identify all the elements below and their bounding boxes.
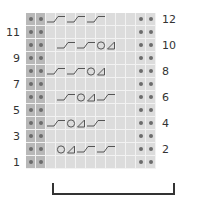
chart-cell (66, 78, 76, 91)
chart-cell (26, 156, 36, 169)
chart-cell (136, 65, 146, 78)
chart-cell (116, 104, 126, 117)
chart-cell (146, 13, 156, 26)
chart-cell (46, 52, 56, 65)
chart-cell (56, 130, 66, 143)
chart-cell (36, 130, 46, 143)
dot-icon (149, 43, 153, 47)
chart-cell (146, 52, 156, 65)
dot-icon (39, 43, 43, 47)
chart-cell (66, 156, 76, 169)
chart-cell (36, 52, 46, 65)
chart-cell (86, 52, 96, 65)
row-label-9: 9 (4, 52, 20, 65)
chart-cell (76, 130, 86, 143)
chart-cell (126, 26, 136, 39)
chart-cell (26, 78, 36, 91)
chart-cell (96, 78, 106, 91)
chart-cell (36, 26, 46, 39)
cable-cross-icon (76, 143, 96, 156)
circle-yo-icon (86, 65, 96, 78)
chart-cell (56, 52, 66, 65)
cable-cross-icon (76, 39, 96, 52)
chart-cell (86, 26, 96, 39)
dot-icon (39, 147, 43, 151)
cable-cross-icon (56, 39, 76, 52)
dot-icon (139, 95, 143, 99)
dot-icon (139, 56, 143, 60)
chart-cell (146, 78, 156, 91)
chart-cell (106, 78, 116, 91)
chart-cell (146, 65, 156, 78)
chart-cell (146, 91, 156, 104)
dot-icon (139, 30, 143, 34)
chart-cell (46, 26, 56, 39)
triangle-decrease-icon (86, 91, 96, 104)
chart-cell (76, 78, 86, 91)
triangle-decrease-icon (106, 39, 116, 52)
chart-cell (46, 78, 56, 91)
chart-cell (126, 52, 136, 65)
triangle-decrease-icon (96, 65, 106, 78)
dot-icon (29, 69, 33, 73)
triangle-decrease-icon (76, 117, 86, 130)
circle-yo-icon (76, 91, 86, 104)
chart-cell (136, 52, 146, 65)
chart-cell (116, 117, 126, 130)
dot-icon (149, 121, 153, 125)
chart-cell (146, 39, 156, 52)
dot-icon (139, 69, 143, 73)
dot-icon (39, 30, 43, 34)
chart-cell (136, 156, 146, 169)
chart-cell (106, 156, 116, 169)
chart-cell (96, 156, 106, 169)
chart-cell (36, 91, 46, 104)
dot-icon (139, 17, 143, 21)
chart-cell (96, 130, 106, 143)
chart-cell (146, 104, 156, 117)
row-label-6: 6 (162, 91, 182, 104)
row-label-3: 3 (4, 130, 20, 143)
dot-icon (139, 160, 143, 164)
chart-cell (56, 26, 66, 39)
chart-cell (86, 78, 96, 91)
dot-icon (149, 56, 153, 60)
dot-icon (29, 108, 33, 112)
dot-icon (139, 108, 143, 112)
chart-cell (136, 78, 146, 91)
chart-cell (116, 13, 126, 26)
chart-cell (116, 52, 126, 65)
circle-yo-icon (66, 117, 76, 130)
chart-cell (36, 143, 46, 156)
dot-icon (29, 134, 33, 138)
cable-cross-icon (86, 117, 106, 130)
dot-icon (149, 30, 153, 34)
dot-icon (149, 134, 153, 138)
chart-cell (76, 26, 86, 39)
chart-cell (86, 130, 96, 143)
chart-cell (26, 52, 36, 65)
dot-icon (29, 43, 33, 47)
chart-cell (96, 52, 106, 65)
chart-cell (26, 91, 36, 104)
dot-icon (139, 147, 143, 151)
chart-cell (36, 65, 46, 78)
cable-cross-icon (46, 117, 66, 130)
cable-cross-icon (96, 91, 116, 104)
cable-cross-icon (66, 65, 86, 78)
chart-cell (96, 26, 106, 39)
row-label-2: 2 (162, 143, 182, 156)
chart-cell (26, 39, 36, 52)
chart-cell (86, 156, 96, 169)
dot-icon (139, 121, 143, 125)
dot-icon (149, 95, 153, 99)
chart-cell (146, 26, 156, 39)
chart-cell (46, 143, 56, 156)
circle-yo-icon (96, 39, 106, 52)
dot-icon (29, 30, 33, 34)
row-label-7: 7 (4, 78, 20, 91)
cable-cross-icon (56, 91, 76, 104)
chart-cell (46, 130, 56, 143)
row-label-1: 1 (4, 156, 20, 169)
triangle-decrease-icon (66, 143, 76, 156)
